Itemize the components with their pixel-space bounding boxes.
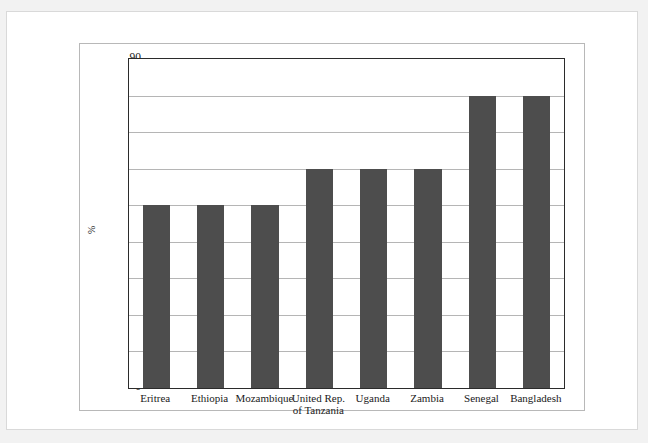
page-background: % 0102030405060708090 EritreaEthiopiaMoz… <box>0 0 648 443</box>
bar <box>143 205 170 388</box>
x-tick-label: Bangladesh <box>507 393 564 405</box>
plot-area <box>128 58 565 389</box>
x-tick-label: Uganda <box>344 393 401 405</box>
gridline <box>129 132 564 133</box>
chart-panel: % 0102030405060708090 EritreaEthiopiaMoz… <box>79 43 585 411</box>
gridline <box>129 169 564 170</box>
bar <box>251 205 278 388</box>
gridline <box>129 278 564 279</box>
bar <box>360 169 387 388</box>
gridline <box>129 96 564 97</box>
bar <box>469 96 496 388</box>
gridline <box>129 351 564 352</box>
bar <box>197 205 224 388</box>
bar <box>306 169 333 388</box>
x-tick-label: Mozambique <box>235 393 292 405</box>
x-tick-label: United Rep. of Tanzania <box>290 393 347 416</box>
x-tick-label: Senegal <box>453 393 510 405</box>
x-tick-label: Eritrea <box>127 393 184 405</box>
y-axis-label: % <box>86 226 97 234</box>
x-tick-label: Zambia <box>399 393 456 405</box>
x-tick-label: Ethiopia <box>181 393 238 405</box>
bar <box>414 169 441 388</box>
document-page: % 0102030405060708090 EritreaEthiopiaMoz… <box>6 11 638 430</box>
bar <box>523 96 550 388</box>
gridline <box>129 242 564 243</box>
faint-page-header-text <box>47 12 527 23</box>
gridline <box>129 205 564 206</box>
gridline <box>129 315 564 316</box>
